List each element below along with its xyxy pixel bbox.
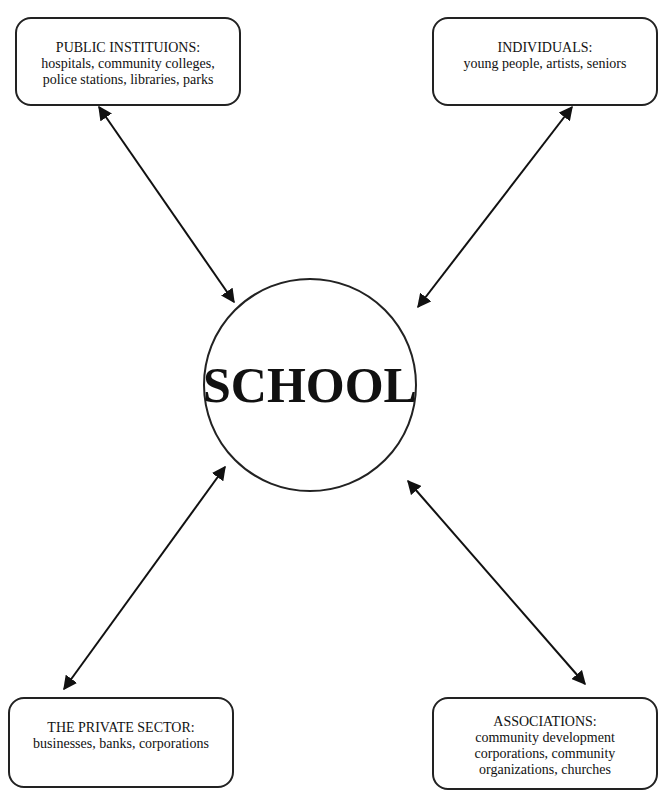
node-detail: organizations, churches [434,762,656,778]
node-associations: ASSOCIATIONS: community development corp… [432,697,658,790]
arrow-school-public-institutions [99,107,234,302]
node-detail: corporations, community [434,746,656,762]
node-title: THE PRIVATE SECTOR: [10,720,232,736]
node-title: INDIVIDUALS: [434,40,656,56]
center-node-school: SCHOOL [203,278,417,492]
arrow-school-individuals [418,107,572,307]
node-detail: businesses, banks, corporations [10,736,232,752]
arrow-school-associations [408,481,585,684]
node-detail: police stations, libraries, parks [17,72,239,88]
node-title: PUBLIC INSTITUIONS: [17,40,239,56]
node-detail: community development [434,730,656,746]
node-title: ASSOCIATIONS: [434,714,656,730]
node-detail: hospitals, community colleges, [17,56,239,72]
node-private-sector: THE PRIVATE SECTOR: businesses, banks, c… [8,697,234,788]
center-label: SCHOOL [203,356,417,414]
arrow-school-private-sector [64,467,225,689]
node-detail: young people, artists, seniors [434,56,656,72]
node-public-institutions: PUBLIC INSTITUIONS: hospitals, community… [15,17,241,106]
node-individuals: INDIVIDUALS: young people, artists, seni… [432,17,658,106]
